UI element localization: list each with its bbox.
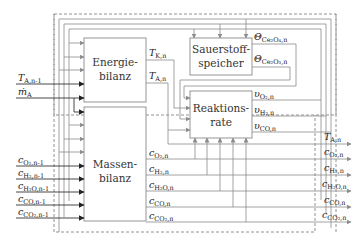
input-m-A-to-mass [74, 98, 84, 112]
line-T-A [146, 83, 190, 130]
label-c-H2: cH₂,n [149, 163, 169, 176]
label-c-O2: cO₂,n [149, 147, 169, 160]
out-c-CO: cCO,n [324, 194, 346, 207]
label-v-O2: υO₂,n [254, 88, 274, 101]
out-c-O2: cO₂,n [324, 146, 344, 159]
label-c-H2O-prev: cH₂O,n-1 [18, 180, 49, 193]
reaction-rate-label-1: Reaktions- [193, 102, 250, 114]
label-c-CO2: cCO₂,n [149, 210, 174, 223]
out-T-A: TA,n [324, 131, 341, 144]
mass-balance-label-2: bilanz [99, 172, 131, 184]
label-T-A: TA,n [149, 70, 166, 83]
label-c-H2-prev: cH₂,n-1 [18, 167, 44, 180]
out-c-CO2: cCO₂,n [322, 209, 347, 222]
oxygen-storage-label-1: Sauerstoff- [192, 43, 250, 55]
reaction-rate-block [190, 91, 252, 138]
label-c-CO: cCO,n [149, 195, 171, 208]
label-c-CO2-prev: cCO₂,n-1 [18, 206, 49, 219]
block-diagram: Energie- bilanz Massen- bilanz Sauerstof… [0, 0, 363, 248]
label-c-H2O: cH₂O,n [149, 179, 174, 192]
oxygen-storage-label-2: speicher [198, 57, 245, 69]
reaction-rate-label-2: rate [210, 116, 232, 128]
mass-balance-label-1: Massen- [93, 158, 138, 170]
energy-balance-label-1: Energie- [92, 56, 138, 68]
label-theta-ce2o3: ΘCe₂O₃,n [254, 53, 287, 66]
label-theta-ce2o4: ΘCe₂O₄,n [254, 31, 287, 44]
label-m-A: ṁA [18, 86, 32, 99]
label-T-K: TK,n [149, 47, 166, 60]
label-c-O2-prev: cO₂,n-1 [18, 154, 44, 167]
energy-balance-label-2: bilanz [99, 70, 131, 82]
label-c-CO-prev: cCO,n-1 [18, 193, 46, 206]
label-v-CO: υCO,n [254, 120, 276, 133]
label-T-A-prev: TA,n-1 [18, 72, 42, 85]
out-c-H2: cH₂,n [324, 162, 344, 175]
